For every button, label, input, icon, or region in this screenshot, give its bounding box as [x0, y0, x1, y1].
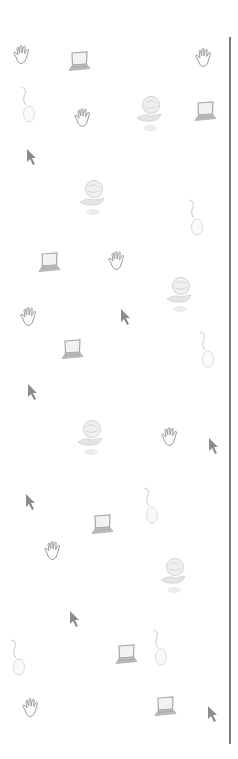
hand-icon [159, 426, 183, 450]
mouse-icon [150, 628, 172, 668]
hand-icon [18, 306, 42, 330]
hand-icon [106, 250, 130, 274]
laptop-icon [152, 695, 178, 721]
mouse-icon [186, 198, 208, 238]
laptop-icon [89, 513, 115, 539]
cursor-icon [26, 383, 40, 401]
globe-icon [76, 178, 110, 218]
cursor-icon [119, 308, 133, 326]
globe-icon [157, 556, 191, 596]
globe-icon [133, 94, 167, 134]
mouse-icon [8, 638, 30, 678]
laptop-icon [59, 338, 85, 364]
vertical-divider [229, 37, 231, 744]
hand-icon [72, 107, 96, 131]
globe-icon [74, 418, 108, 458]
hand-icon [11, 44, 35, 68]
cursor-icon [207, 437, 221, 455]
hand-icon [193, 47, 217, 71]
laptop-icon [113, 643, 139, 669]
laptop-icon [192, 100, 218, 126]
mouse-icon [197, 330, 219, 370]
globe-icon [163, 275, 197, 315]
hand-icon [20, 697, 44, 721]
hand-icon [42, 540, 66, 564]
mouse-icon [18, 85, 40, 125]
cursor-icon [68, 610, 82, 628]
cursor-icon [206, 705, 220, 723]
cursor-icon [24, 493, 38, 511]
mouse-icon [141, 486, 163, 526]
cursor-icon [25, 148, 39, 166]
laptop-icon [36, 251, 62, 277]
laptop-icon [66, 50, 92, 76]
